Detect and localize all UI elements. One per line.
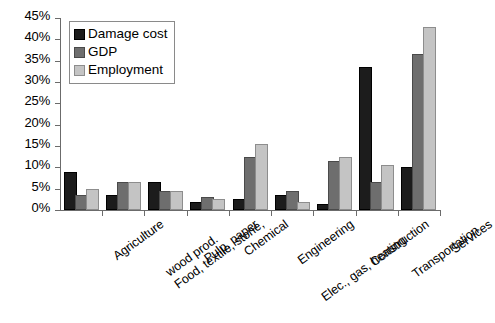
x-axis-tick-mark — [440, 211, 441, 216]
bar — [170, 191, 183, 210]
x-axis-tick-mark — [313, 211, 314, 216]
legend-label: Employment — [88, 63, 163, 77]
bar-group — [401, 18, 434, 210]
y-axis-tick-mark — [55, 39, 60, 40]
y-axis-tick-mark — [55, 146, 60, 147]
y-axis-tick-label: 0% — [32, 201, 50, 214]
y-axis-tick-mark — [55, 82, 60, 83]
x-axis-line — [60, 210, 441, 211]
y-axis-tick-mark — [55, 61, 60, 62]
y-axis-tick-label: 15% — [25, 137, 50, 150]
legend-label: GDP — [88, 45, 117, 59]
bar — [128, 182, 141, 210]
legend-item: Damage cost — [74, 25, 168, 43]
bar — [339, 157, 352, 210]
y-axis-tick-label: 10% — [25, 158, 50, 171]
legend-item: GDP — [74, 43, 168, 61]
bar-group — [190, 18, 223, 210]
bar-group — [317, 18, 350, 210]
x-axis-tick-mark — [271, 211, 272, 216]
y-axis-line — [60, 18, 61, 211]
legend-label: Damage cost — [88, 27, 168, 41]
y-axis-tick-mark — [55, 210, 60, 211]
y-axis-tick-label: 25% — [25, 94, 50, 107]
bar — [212, 199, 225, 210]
x-axis-tick-mark — [229, 211, 230, 216]
x-axis-tick-mark — [398, 211, 399, 216]
x-axis-label: Agriculture — [111, 218, 166, 263]
y-axis-tick-label: 20% — [25, 116, 50, 129]
y-axis-tick-label: 35% — [25, 52, 50, 65]
bar-group — [233, 18, 266, 210]
bar — [381, 165, 394, 210]
y-axis-tick-mark — [55, 18, 60, 19]
legend-swatch-icon — [74, 29, 85, 40]
y-axis-tick-label: 5% — [32, 180, 50, 193]
x-axis-tick-mark — [102, 211, 103, 216]
x-axis-tick-mark — [144, 211, 145, 216]
y-axis-tick-label: 45% — [25, 9, 50, 22]
y-axis-tick-label: 40% — [25, 30, 50, 43]
y-axis-tick-mark — [55, 103, 60, 104]
chart-legend: Damage costGDPEmployment — [69, 21, 175, 84]
y-axis-tick-mark — [55, 189, 60, 190]
legend-item: Employment — [74, 61, 168, 79]
bar-group — [275, 18, 308, 210]
y-axis-tick-mark — [55, 125, 60, 126]
bar — [423, 27, 436, 210]
y-axis-tick-label: 30% — [25, 73, 50, 86]
bar-group — [359, 18, 392, 210]
legend-swatch-icon — [74, 65, 85, 76]
bar — [86, 189, 99, 210]
y-axis-tick-mark — [55, 167, 60, 168]
bar — [297, 202, 310, 210]
x-axis-tick-mark — [356, 211, 357, 216]
x-axis-tick-mark — [187, 211, 188, 216]
x-axis-label: Engineering — [296, 218, 357, 267]
bar — [255, 144, 268, 210]
legend-swatch-icon — [74, 47, 85, 58]
